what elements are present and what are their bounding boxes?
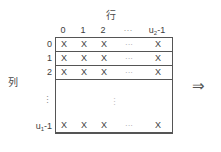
matrix-cell-ellipsis: ··· — [117, 52, 141, 65]
matrix-cell: X — [92, 66, 116, 79]
matrix-row: XXX···X — [56, 38, 172, 52]
matrix-cell: X — [92, 52, 116, 65]
matrix-layout-diagram: 行 列 012···u2-1 012⋮u1-1 XXX···XXXX···XXX… — [0, 0, 221, 152]
matrix-row: XXX···X — [56, 66, 172, 80]
matrix-cell: X — [146, 119, 170, 132]
matrix-cell: X — [146, 66, 170, 79]
matrix-cell-ellipsis: ··· — [117, 66, 141, 79]
row-axis-caption: 行 — [106, 11, 116, 21]
column-header-strip: 012···u2-1 — [55, 24, 173, 37]
matrix-cell-ellipsis: ··· — [117, 119, 141, 132]
matrix-cell: X — [146, 52, 170, 65]
matrix-row: XXX···X — [56, 52, 172, 66]
implies-arrow-icon: ⇒ — [192, 78, 205, 93]
matrix-cell: X — [92, 119, 116, 132]
matrix-cell-ellipsis: ··· — [117, 38, 141, 51]
matrix-grid: XXX···XXXX···XXXX···X⋮XXX···X — [55, 37, 173, 134]
row-header-4: u1-1 — [36, 119, 52, 134]
column-header-4: u2-1 — [145, 24, 169, 38]
matrix-row: XXX···X — [56, 119, 172, 133]
vertical-ellipsis: ⋮ — [56, 98, 172, 107]
row-header-3: ⋮ — [43, 93, 52, 107]
matrix-cell: X — [146, 38, 170, 51]
column-header-2: 2 — [91, 24, 115, 37]
matrix-cell: X — [92, 38, 116, 51]
column-header-3: ··· — [116, 24, 140, 37]
row-header-strip: 012⋮u1-1 — [12, 37, 54, 134]
